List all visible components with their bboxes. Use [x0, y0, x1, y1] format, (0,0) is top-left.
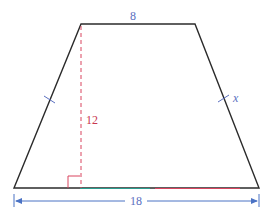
side-x-label: x: [232, 91, 239, 105]
arrow-left-icon: [15, 198, 22, 204]
trapezoid-diagram: 8 12 18 x: [0, 0, 269, 216]
height-label: 12: [86, 113, 98, 127]
top-base-label: 8: [130, 9, 136, 23]
trapezoid-shape: [14, 24, 259, 188]
arrow-right-icon: [251, 198, 258, 204]
bottom-base-label: 18: [130, 194, 142, 208]
right-angle-marker: [68, 176, 80, 188]
